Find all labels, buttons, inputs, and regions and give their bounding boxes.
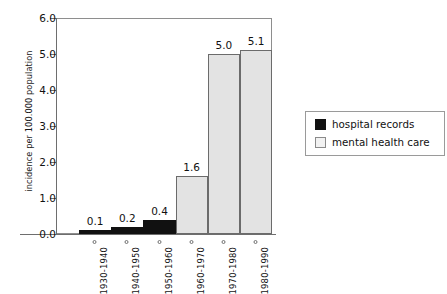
y-axis-line <box>56 18 57 235</box>
black-swatch-icon <box>315 119 326 130</box>
x-tick-label: 1940-1950 <box>131 247 141 294</box>
bar-value-label: 0.1 <box>79 215 111 227</box>
x-tick-mark <box>189 240 193 244</box>
x-tick-mark <box>254 240 258 244</box>
x-axis-line <box>20 234 276 235</box>
y-tick-label: 0.0 <box>10 228 56 240</box>
bar-value-label: 0.2 <box>111 212 143 224</box>
light-swatch-icon <box>315 137 326 148</box>
x-tick-label: 1960-1970 <box>196 247 206 294</box>
legend-label-hospital-records: hospital records <box>332 118 414 130</box>
bar-1970-1980 <box>208 54 240 234</box>
bar-value-label: 5.1 <box>240 35 272 47</box>
legend-item-mental-health-care: mental health care <box>315 136 430 148</box>
legend-label-mental-health-care: mental health care <box>332 136 430 148</box>
x-tick-mark <box>157 240 161 244</box>
bar-value-label: 0.4 <box>143 205 175 217</box>
bar-1940-1950 <box>111 227 143 234</box>
y-tick-label: 3.0 <box>10 120 56 132</box>
bar-1980-1990 <box>240 50 272 234</box>
x-tick-label: 1980-1990 <box>260 247 270 294</box>
x-tick-mark <box>221 240 225 244</box>
x-tick-label: 1950-1960 <box>164 247 174 294</box>
x-tick-label: 1970-1980 <box>228 247 238 294</box>
bar-1930-1940 <box>79 230 111 234</box>
y-tick-label: 1.0 <box>10 192 56 204</box>
bar-value-label: 5.0 <box>208 39 240 51</box>
y-tick-label: 4.0 <box>10 84 56 96</box>
x-tick-mark <box>93 240 97 244</box>
legend-item-hospital-records: hospital records <box>315 118 414 130</box>
y-tick-label: 5.0 <box>10 48 56 60</box>
x-tick-label: 1930-1940 <box>99 247 109 294</box>
bar-1960-1970 <box>176 176 208 234</box>
y-tick-label: 6.0 <box>10 12 56 24</box>
bar-1950-1960 <box>143 220 175 234</box>
y-tick-label: 2.0 <box>10 156 56 168</box>
bar-value-label: 1.6 <box>176 161 208 173</box>
x-tick-mark <box>125 240 129 244</box>
legend: hospital records mental health care <box>305 111 445 156</box>
